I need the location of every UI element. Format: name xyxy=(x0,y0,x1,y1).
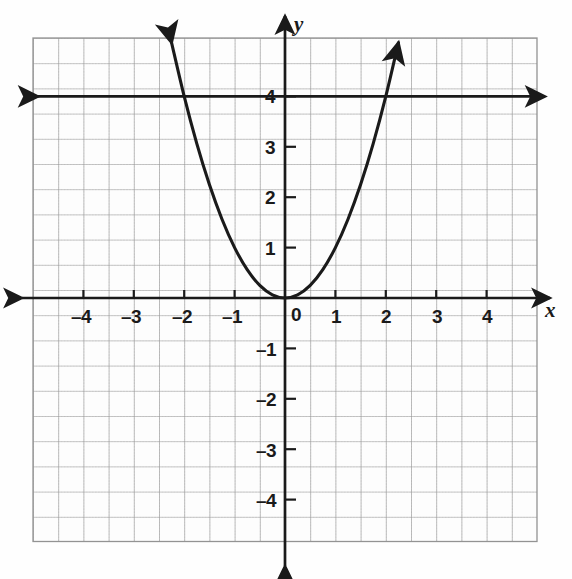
x-tick-label-neg4: –4 xyxy=(71,307,91,326)
y-axis-name-label: y xyxy=(294,14,303,35)
x-tick-label-neg2: –2 xyxy=(172,307,192,326)
x-tick-label-1: 1 xyxy=(331,307,341,326)
y-tick-label-2: 2 xyxy=(265,188,275,207)
x-tick-label-4: 4 xyxy=(482,307,492,326)
origin-label: 0 xyxy=(291,305,301,324)
coordinate-plane-svg xyxy=(0,0,572,579)
y-tick-label-neg3: –3 xyxy=(256,441,276,460)
x-tick-label-2: 2 xyxy=(381,307,391,326)
x-tick-label-neg3: –3 xyxy=(121,307,141,326)
x-tick-label-neg1: –1 xyxy=(222,307,242,326)
y-tick-label-3: 3 xyxy=(265,138,275,157)
y-tick-label-4: 4 xyxy=(265,87,275,106)
graph-figure: –4 –3 –2 –1 1 2 3 4 0 4 3 2 1 –1 –2 –3 –… xyxy=(0,0,572,579)
y-tick-label-neg4: –4 xyxy=(256,491,276,510)
x-tick-label-3: 3 xyxy=(432,307,442,326)
y-tick-label-neg2: –2 xyxy=(256,390,276,409)
y-tick-label-1: 1 xyxy=(265,239,275,258)
y-tick-label-neg1: –1 xyxy=(256,340,276,359)
x-axis-name-label: x xyxy=(545,300,556,321)
